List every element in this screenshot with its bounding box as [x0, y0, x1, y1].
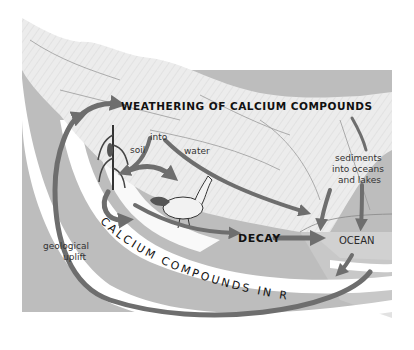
- decay-label: DECAY: [238, 233, 281, 244]
- soil-label: soil: [130, 146, 145, 155]
- sediments-label-1: sediments: [335, 154, 382, 163]
- sediments-arrow-2: [361, 185, 362, 225]
- ocean-label: OCEAN: [339, 236, 375, 246]
- geological-label-2: uplift: [63, 253, 86, 262]
- sediments-label-2: into oceans: [332, 165, 384, 174]
- weathering-label: WEATHERING OF CALCIUM COMPOUNDS: [121, 101, 373, 112]
- water-label: water: [184, 147, 210, 156]
- calcium-cycle-diagram: CALCIUM COMPOUNDS IN ROCKS WEATHERING OF…: [0, 0, 414, 350]
- sediments-label-3: and lakes: [338, 176, 381, 185]
- into-label: into: [150, 133, 167, 142]
- geological-label-1: geological: [43, 242, 89, 251]
